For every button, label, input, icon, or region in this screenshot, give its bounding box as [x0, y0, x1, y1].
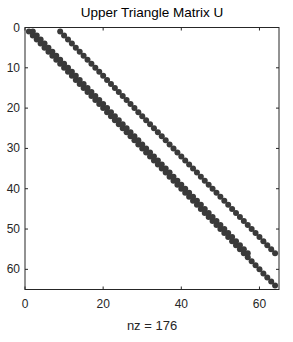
nonzero-marker: [272, 282, 278, 288]
x-tick-label: 40: [175, 297, 189, 311]
chart-title: Upper Triangle Matrix U: [81, 5, 224, 20]
x-axis-label: nz = 176: [127, 318, 177, 333]
nonzero-marker: [272, 250, 278, 256]
y-tick-label: 40: [7, 182, 21, 196]
y-tick-label: 30: [7, 141, 21, 155]
nonzero-marker: [245, 250, 251, 256]
x-tick-label: 0: [22, 297, 29, 311]
y-tick-label: 60: [7, 262, 21, 276]
y-tick-label: 10: [7, 61, 21, 75]
y-tick-label: 0: [13, 21, 20, 35]
y-tick-label: 50: [7, 222, 21, 236]
y-tick-label: 20: [7, 101, 21, 115]
x-tick-label: 60: [253, 297, 267, 311]
x-tick-label: 20: [96, 297, 110, 311]
spy-chart: Upper Triangle Matrix U 0102030405060 02…: [0, 0, 293, 342]
